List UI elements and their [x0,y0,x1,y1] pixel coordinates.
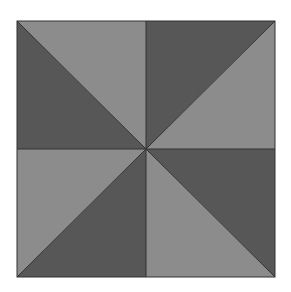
divider-lines [17,21,275,277]
pinwheel-diagram [0,0,291,292]
